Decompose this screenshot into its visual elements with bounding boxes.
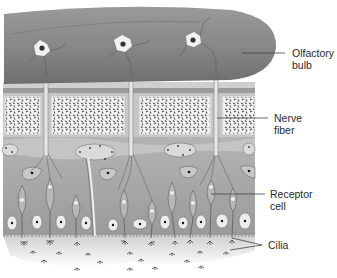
- label-line: bulb: [292, 59, 334, 71]
- label-line: Nerve: [274, 112, 302, 124]
- mucus-layer: [3, 235, 255, 267]
- olfactory-bulb: [4, 7, 276, 84]
- label-line: cell: [270, 200, 313, 212]
- label-receptor-cell: Receptor cell: [270, 188, 313, 212]
- label-cilia: Cilia: [268, 239, 288, 251]
- label-nerve-fiber: Nerve fiber: [274, 112, 302, 136]
- label-line: fiber: [274, 124, 302, 136]
- label-olfactory-bulb: Olfactory bulb: [292, 47, 334, 71]
- label-line: Olfactory: [292, 47, 334, 59]
- label-line: Receptor: [270, 188, 313, 200]
- label-line: Cilia: [268, 239, 288, 251]
- olfactory-diagram: [0, 0, 337, 278]
